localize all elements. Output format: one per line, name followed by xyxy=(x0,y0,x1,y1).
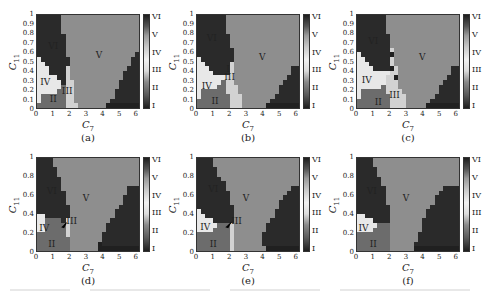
x-tick-label: 4 xyxy=(420,254,424,261)
colorbar-tick-label: V xyxy=(472,31,478,39)
x-tick-label: 4 xyxy=(100,254,104,261)
x-tick-label: 2 xyxy=(67,254,71,261)
heatmap-cell xyxy=(295,103,299,108)
colorbar xyxy=(143,157,150,252)
y-tick-label: 0.6 xyxy=(183,192,194,199)
x-tick-label: 1 xyxy=(370,111,374,118)
y-tick-label: 0.2 xyxy=(343,230,354,237)
x-tick-label: 4 xyxy=(260,111,264,118)
region-label: II xyxy=(370,240,377,249)
colorbar-tick-label: V xyxy=(472,174,478,182)
colorbar xyxy=(303,157,310,252)
y-axis-label: C11 xyxy=(168,197,181,214)
colorbar xyxy=(303,14,310,109)
y-tick-label: 1 xyxy=(190,154,194,161)
panel-caption: (d) xyxy=(81,276,95,286)
region-label: IV xyxy=(202,81,212,90)
colorbar-tick-label: I xyxy=(152,245,155,253)
x-tick-label: 6 xyxy=(454,254,458,261)
x-tick-label: 4 xyxy=(100,111,104,118)
region-label: II xyxy=(50,94,57,103)
colorbar-tick-label: I xyxy=(472,245,475,253)
y-tick-label: 0.7 xyxy=(183,39,194,46)
y-tick-label: 0.3 xyxy=(23,77,34,84)
y-tick-label: 0.8 xyxy=(343,30,354,37)
y-tick-label: 1 xyxy=(30,11,34,18)
x-tick-label: 6 xyxy=(134,111,138,118)
y-axis-label: C11 xyxy=(168,54,181,71)
region-label: VI xyxy=(367,186,377,195)
y-tick-label: 0.6 xyxy=(343,192,354,199)
x-tick-label: 0 xyxy=(34,111,38,118)
y-tick-label: 0.1 xyxy=(23,96,34,103)
y-tick-label: 0.6 xyxy=(23,192,34,199)
panel-caption: (e) xyxy=(241,276,255,286)
colorbar-tick-label: VI xyxy=(472,13,481,21)
colorbar xyxy=(463,14,470,109)
colorbar-tick-label: IV xyxy=(472,49,481,57)
region-label: V xyxy=(419,52,426,61)
y-tick-label: 0.4 xyxy=(23,68,34,75)
colorbar-tick-label: III xyxy=(472,209,481,217)
colorbar-tick-label: I xyxy=(312,102,315,110)
region-label: IV xyxy=(362,76,372,85)
colorbar-tick-label: V xyxy=(312,174,318,182)
colorbar xyxy=(143,14,150,109)
colorbar-tick-label: III xyxy=(472,66,481,74)
y-tick-label: 0.5 xyxy=(183,58,194,65)
x-tick-label: 3 xyxy=(404,111,408,118)
y-axis-label: C11 xyxy=(328,197,341,214)
y-tick-label: 1 xyxy=(30,154,34,161)
x-tick-label: 5 xyxy=(277,111,281,118)
y-tick-label: 0.4 xyxy=(343,68,354,75)
x-tick-label: 5 xyxy=(117,254,121,261)
y-tick-label: 0.9 xyxy=(23,20,34,27)
arrow-icon xyxy=(37,158,140,252)
colorbar-tick-label: V xyxy=(152,174,158,182)
region-label: IV xyxy=(40,77,50,86)
y-tick-label: 0.4 xyxy=(23,211,34,218)
x-tick-label: 2 xyxy=(67,111,71,118)
colorbar-tick-label: I xyxy=(472,102,475,110)
x-tick-label: 1 xyxy=(50,254,54,261)
y-tick-label: 0.8 xyxy=(183,30,194,37)
x-tick-label: 2 xyxy=(387,111,391,118)
panel-b: VIVIIIIIVII10.90.80.70.60.50.40.30.20.10… xyxy=(160,0,320,140)
y-tick-label: 0.8 xyxy=(23,173,34,180)
y-tick-label: 0.8 xyxy=(183,173,194,180)
x-tick-label: 0 xyxy=(194,254,198,261)
heatmap-plot-area: VIVIVIIIII xyxy=(196,157,300,252)
heatmap-cell xyxy=(135,103,139,108)
x-tick-label: 3 xyxy=(244,111,248,118)
panel-caption: (c) xyxy=(401,133,414,143)
y-tick-label: 0.7 xyxy=(343,39,354,46)
y-tick-label: 0.7 xyxy=(23,39,34,46)
x-tick-label: 3 xyxy=(244,254,248,261)
annotation-label: III xyxy=(66,217,77,226)
y-tick-label: 0.8 xyxy=(23,30,34,37)
y-tick-label: 0.6 xyxy=(343,49,354,56)
colorbar-tick-label: II xyxy=(472,84,478,92)
panel-f: VIVIVII10.80.60.40.200123456VIVIVIIIIIIC… xyxy=(320,143,480,283)
caption-remnant xyxy=(0,287,491,294)
y-tick-label: 1 xyxy=(190,11,194,18)
x-tick-label: 5 xyxy=(117,111,121,118)
x-tick-label: 6 xyxy=(454,111,458,118)
colorbar-tick-label: II xyxy=(472,227,478,235)
panel-caption: (a) xyxy=(81,133,95,143)
heatmap-cell xyxy=(455,103,459,108)
colorbar-tick-label: V xyxy=(152,31,158,39)
panel-a: VIVIVIIIII10.90.80.70.60.50.40.30.20.100… xyxy=(0,0,160,140)
colorbar-tick-label: II xyxy=(312,227,318,235)
heatmap-plot-area: VIVIVIIIII xyxy=(356,14,460,109)
x-tick-label: 0 xyxy=(354,254,358,261)
y-tick-label: 0.9 xyxy=(183,20,194,27)
region-label: V xyxy=(96,50,103,59)
y-tick-label: 1 xyxy=(350,154,354,161)
x-tick-label: 6 xyxy=(294,111,298,118)
y-tick-label: 1 xyxy=(350,11,354,18)
x-tick-label: 5 xyxy=(437,111,441,118)
heatmap-grid xyxy=(197,15,299,108)
x-tick-label: 5 xyxy=(437,254,441,261)
region-label: IV xyxy=(358,223,368,232)
